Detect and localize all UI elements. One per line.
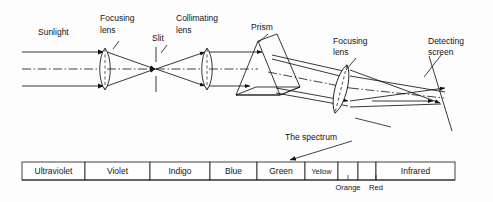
converging-ray-bottom (107, 69, 155, 86)
label-collimating-lens-line1: Collimating (176, 13, 218, 23)
spectrum-bar: UltravioletVioletIndigoBlueGreenYellowIn… (22, 162, 455, 192)
label-focusing-lens-1-line1: Focusing (100, 13, 135, 23)
spectrometer-diagram: Sunlight Focusing lens Slit Collimating … (0, 0, 493, 202)
label-detecting-screen-line2: screen (428, 47, 454, 57)
spectrum-cell-label: Violet (107, 166, 129, 176)
spectrum-cell[interactable] (358, 162, 376, 180)
leader-the-spectrum (290, 141, 352, 160)
converging-rays-to-slit (107, 52, 156, 86)
dispersed-ray-1 (272, 55, 348, 72)
spectrum-cell-label: Indigo (168, 166, 191, 176)
diverging-rays-to-collimator (156, 52, 207, 86)
label-collimating-lens-line2: lens (176, 25, 192, 35)
label-sunlight: Sunlight (38, 27, 69, 37)
leader-focusing-lens-1 (113, 41, 119, 49)
focused-ray-4 (350, 104, 441, 107)
label-slit: Slit (152, 33, 164, 43)
spectrum-cell-label: Ultraviolet (35, 166, 73, 176)
leader-focusing-lens-2 (346, 58, 356, 70)
label-focusing-lens-1-line2: lens (100, 25, 116, 35)
leader-spectrum-tail (355, 118, 391, 127)
spectrum-cell-label: Infrared (401, 166, 431, 176)
leader-detecting-screen (424, 54, 442, 77)
sunlight-ray-group (22, 52, 105, 86)
collimated-beam (209, 52, 262, 86)
label-focusing-lens-2-line1: Focusing (333, 36, 368, 46)
detecting-screen-surface (429, 56, 452, 131)
focusing-lens-2 (329, 63, 353, 114)
leader-slit (161, 45, 167, 53)
spectrum-cell-label: Yellow (312, 168, 333, 175)
label-focusing-lens-2-line2: lens (333, 47, 349, 57)
focused-ray-3 (350, 88, 445, 101)
diverging-ray-bottom (156, 69, 205, 86)
spectrum-cell-label: Green (269, 166, 293, 176)
label-prism: Prism (251, 22, 273, 32)
prism-right-edge (280, 87, 300, 95)
spectrum-under-label: Orange (335, 183, 360, 192)
detecting-screen (429, 56, 452, 131)
spectrum-under-label: Red (369, 183, 383, 192)
spectrum-cell-label: Blue (225, 166, 242, 176)
converging-ray-top (107, 52, 155, 69)
label-detecting-screen-line1: Detecting (428, 36, 464, 46)
label-the-spectrum: The spectrum (285, 132, 337, 142)
focused-ray-1 (350, 70, 440, 103)
focused-beam-group (350, 70, 445, 107)
diverging-ray-top (156, 52, 205, 69)
diagram-canvas: Sunlight Focusing lens Slit Collimating … (0, 0, 493, 202)
